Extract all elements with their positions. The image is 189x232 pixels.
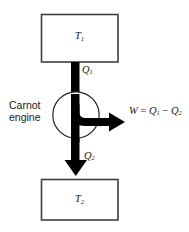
minus-sign: − <box>162 105 168 116</box>
heat-in-label: Q1 <box>82 64 93 76</box>
heat-in-subscript: 1 <box>90 68 93 75</box>
equals-sign: = <box>140 105 146 116</box>
work-equation-label: W = Q1 − Q2 <box>129 105 182 117</box>
work-term1-subscript: 1 <box>157 109 160 116</box>
heat-out-symbol: Q <box>84 150 92 161</box>
hot-reservoir-label: T1 <box>41 29 118 43</box>
cold-reservoir-subscript: 2 <box>81 198 84 205</box>
heat-out-bar <box>71 138 80 162</box>
heat-in-symbol: Q <box>82 64 90 75</box>
work-term2: Q <box>171 105 179 116</box>
engine-name-line1: Carnot <box>9 99 41 111</box>
carnot-engine-diagram: T1 T2 Q1 Q2 Carnotengine W = Q1 − Q2 <box>0 0 189 232</box>
work-term2-subscript: 2 <box>179 109 182 116</box>
heat-out-arrowhead <box>65 160 88 176</box>
engine-name-line2: engine <box>9 111 41 123</box>
cold-reservoir-label: T2 <box>41 192 118 206</box>
heat-out-subscript: 2 <box>92 154 95 161</box>
heat-out-label: Q2 <box>84 150 95 162</box>
work-term1: Q <box>149 105 157 116</box>
work-symbol: W <box>129 105 138 116</box>
work-arrowhead <box>109 113 125 132</box>
hot-reservoir-subscript: 1 <box>81 35 84 42</box>
engine-name-label: Carnotengine <box>9 99 41 124</box>
heat-in-bar <box>71 62 80 94</box>
